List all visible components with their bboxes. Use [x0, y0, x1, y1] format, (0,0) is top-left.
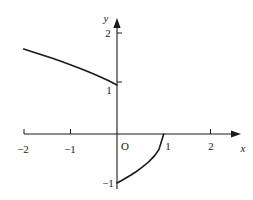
x-tick-label-neg2: −2	[17, 143, 29, 155]
curve-upper-branch	[24, 49, 117, 85]
x-axis-label: x	[240, 142, 246, 154]
graph-figure: y x −2 −1 1 2 2 1 −1 O	[0, 0, 253, 200]
y-tick-label-1: 1	[106, 84, 112, 96]
y-axis-label: y	[103, 12, 109, 24]
x-tick-label-pos2: 2	[208, 140, 214, 152]
y-tick-label-neg1: −1	[102, 177, 114, 189]
coordinate-plot: y x −2 −1 1 2 2 1 −1 O	[0, 0, 253, 200]
y-axis-arrowhead	[113, 18, 120, 28]
x-axis-arrowhead	[231, 130, 241, 137]
y-tick-label-2: 2	[105, 27, 111, 39]
x-tick-label-pos1: 1	[165, 140, 171, 152]
x-tick-label-neg1: −1	[64, 143, 76, 155]
origin-label: O	[121, 140, 129, 152]
